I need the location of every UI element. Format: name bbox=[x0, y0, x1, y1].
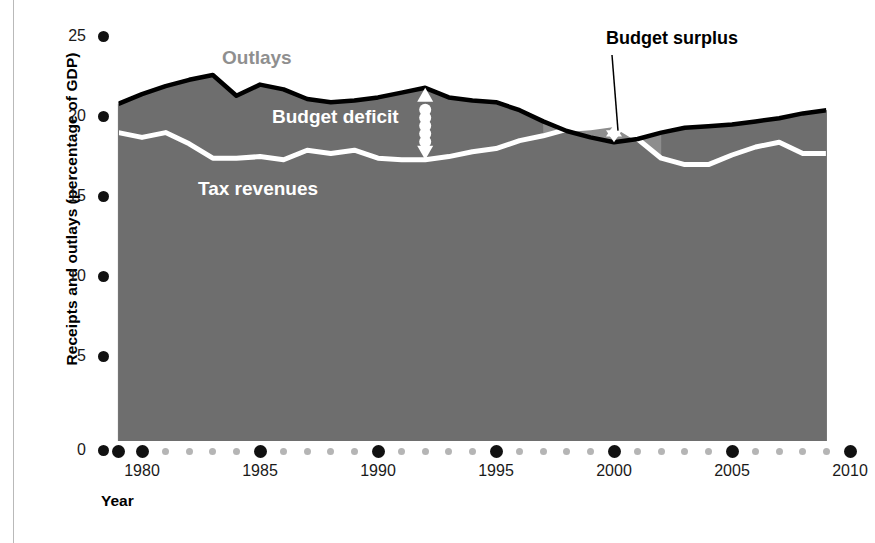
x-tick-label-1985: 1985 bbox=[225, 462, 295, 480]
x-axis-minor-dot bbox=[351, 448, 358, 455]
x-axis-label: Year bbox=[101, 492, 134, 510]
series-label-tax-revenues: Tax revenues bbox=[198, 178, 318, 200]
x-tick-label-2010: 2010 bbox=[815, 462, 875, 480]
x-axis-minor-dot bbox=[776, 448, 783, 455]
chart-figure: Receipts and outlays (percentage of GDP)… bbox=[0, 0, 875, 543]
x-axis-major-dot bbox=[372, 445, 385, 458]
callout-leader-line-budget-surplus bbox=[612, 55, 618, 131]
x-axis-major-dot bbox=[490, 445, 503, 458]
x-axis-major-dot bbox=[608, 445, 621, 458]
x-tick-label-2000: 2000 bbox=[579, 462, 649, 480]
deficit-arrow-dot bbox=[419, 136, 431, 148]
callout-label-budget-surplus: Budget surplus bbox=[606, 28, 738, 49]
series-label-outlays: Outlays bbox=[222, 47, 292, 69]
x-tick-label-1990: 1990 bbox=[343, 462, 413, 480]
x-axis-minor-dot bbox=[587, 448, 594, 455]
x-axis-minor-dot bbox=[422, 448, 429, 455]
x-axis-major-dot bbox=[254, 445, 267, 458]
x-axis-minor-dot bbox=[186, 448, 193, 455]
x-tick-label-2005: 2005 bbox=[697, 462, 767, 480]
x-axis-major-dot bbox=[112, 445, 125, 458]
x-axis-minor-dot bbox=[823, 448, 830, 455]
x-axis-minor-dot bbox=[469, 448, 476, 455]
x-axis-minor-dot bbox=[705, 448, 712, 455]
series-label-budget-deficit: Budget deficit bbox=[272, 106, 399, 128]
x-axis-major-dot bbox=[844, 445, 857, 458]
x-axis-minor-dot bbox=[233, 448, 240, 455]
x-axis-minor-dot bbox=[658, 448, 665, 455]
x-tick-label-1980: 1980 bbox=[107, 462, 177, 480]
x-axis-minor-dot bbox=[540, 448, 547, 455]
x-axis-major-dot bbox=[136, 445, 149, 458]
area-fill-total bbox=[118, 75, 826, 441]
x-axis-major-dot bbox=[726, 445, 739, 458]
x-tick-label-1995: 1995 bbox=[461, 462, 531, 480]
x-axis-minor-dot bbox=[304, 448, 311, 455]
